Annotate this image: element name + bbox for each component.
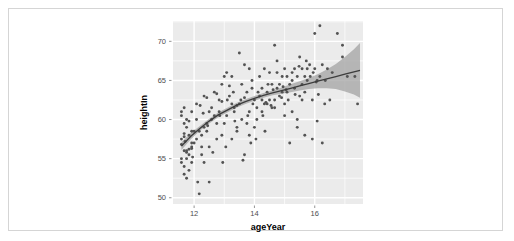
data-point — [278, 83, 281, 86]
data-point — [215, 92, 218, 95]
data-point — [215, 122, 218, 125]
data-point — [242, 159, 245, 162]
data-point — [196, 181, 199, 184]
data-point — [251, 87, 254, 90]
data-point — [331, 71, 334, 74]
data-point — [185, 177, 188, 180]
data-point — [301, 99, 304, 102]
data-point — [296, 126, 299, 129]
x-tick-label: 14 — [250, 209, 258, 218]
data-point — [183, 173, 186, 176]
data-point — [303, 75, 306, 78]
data-point — [301, 67, 304, 70]
data-point — [245, 91, 248, 94]
data-point — [261, 114, 264, 117]
x-tick-label: 12 — [190, 209, 198, 218]
data-point — [200, 134, 203, 137]
data-point — [191, 156, 194, 159]
data-point — [203, 161, 206, 164]
data-point — [291, 79, 294, 82]
data-point — [261, 110, 264, 113]
data-point — [283, 114, 286, 117]
data-point — [267, 83, 270, 86]
data-point — [282, 85, 285, 88]
data-point — [273, 44, 276, 47]
data-point — [195, 118, 198, 121]
data-point — [225, 71, 228, 74]
data-point — [185, 151, 188, 154]
data-point — [298, 65, 301, 68]
data-point — [312, 71, 315, 74]
data-point — [230, 75, 233, 78]
data-point — [309, 75, 312, 78]
data-point — [303, 91, 306, 94]
data-point — [306, 67, 309, 70]
data-point — [225, 114, 228, 117]
data-point — [238, 52, 241, 55]
data-point — [215, 138, 218, 141]
data-point — [235, 130, 238, 133]
data-point — [223, 75, 226, 78]
data-point — [188, 120, 191, 123]
data-point — [211, 151, 214, 154]
data-point — [291, 110, 294, 113]
data-point — [180, 157, 183, 160]
data-point — [286, 75, 289, 78]
data-point — [251, 79, 254, 82]
data-point — [180, 114, 183, 117]
data-point — [233, 110, 236, 113]
data-point — [248, 134, 251, 137]
data-point — [206, 124, 209, 127]
data-point — [226, 99, 229, 102]
data-point — [213, 91, 216, 94]
data-point — [239, 99, 242, 102]
data-point — [291, 71, 294, 74]
data-point — [243, 96, 246, 99]
data-point — [190, 145, 193, 148]
data-point — [313, 32, 316, 35]
x-axis: 121416 — [190, 206, 319, 219]
data-point — [266, 91, 269, 94]
data-point — [326, 67, 329, 70]
data-point — [311, 99, 314, 102]
data-point — [268, 99, 271, 102]
data-point — [270, 83, 273, 86]
data-point — [185, 118, 188, 121]
data-point — [230, 102, 233, 105]
data-point — [224, 145, 227, 148]
data-point — [190, 130, 193, 133]
data-point — [233, 120, 236, 123]
data-point — [205, 96, 208, 99]
data-point — [318, 24, 321, 27]
data-point — [264, 101, 267, 104]
data-point — [317, 93, 320, 96]
data-point — [183, 132, 186, 135]
plot-root: 5055606570 121416 heightIn ageYear — [9, 9, 504, 232]
data-point — [316, 120, 319, 123]
data-point — [210, 106, 213, 109]
data-point — [240, 118, 243, 121]
data-point — [341, 44, 344, 47]
data-point — [183, 135, 186, 138]
data-point — [296, 75, 299, 78]
data-point — [203, 95, 206, 98]
data-point — [240, 83, 243, 86]
data-point — [223, 122, 226, 125]
data-point — [205, 130, 208, 133]
data-point — [321, 142, 324, 145]
data-point — [188, 153, 191, 156]
data-point — [311, 138, 314, 141]
data-point — [288, 83, 291, 86]
y-tick-label: 50 — [158, 193, 166, 202]
data-point — [261, 99, 264, 102]
data-point — [188, 148, 191, 151]
data-point — [246, 114, 249, 117]
data-point — [298, 95, 301, 98]
data-point — [280, 96, 283, 99]
data-point — [308, 63, 311, 66]
data-point — [313, 67, 316, 70]
data-point — [208, 110, 211, 113]
data-point — [328, 99, 331, 102]
data-point — [255, 118, 258, 121]
data-point — [245, 122, 248, 125]
